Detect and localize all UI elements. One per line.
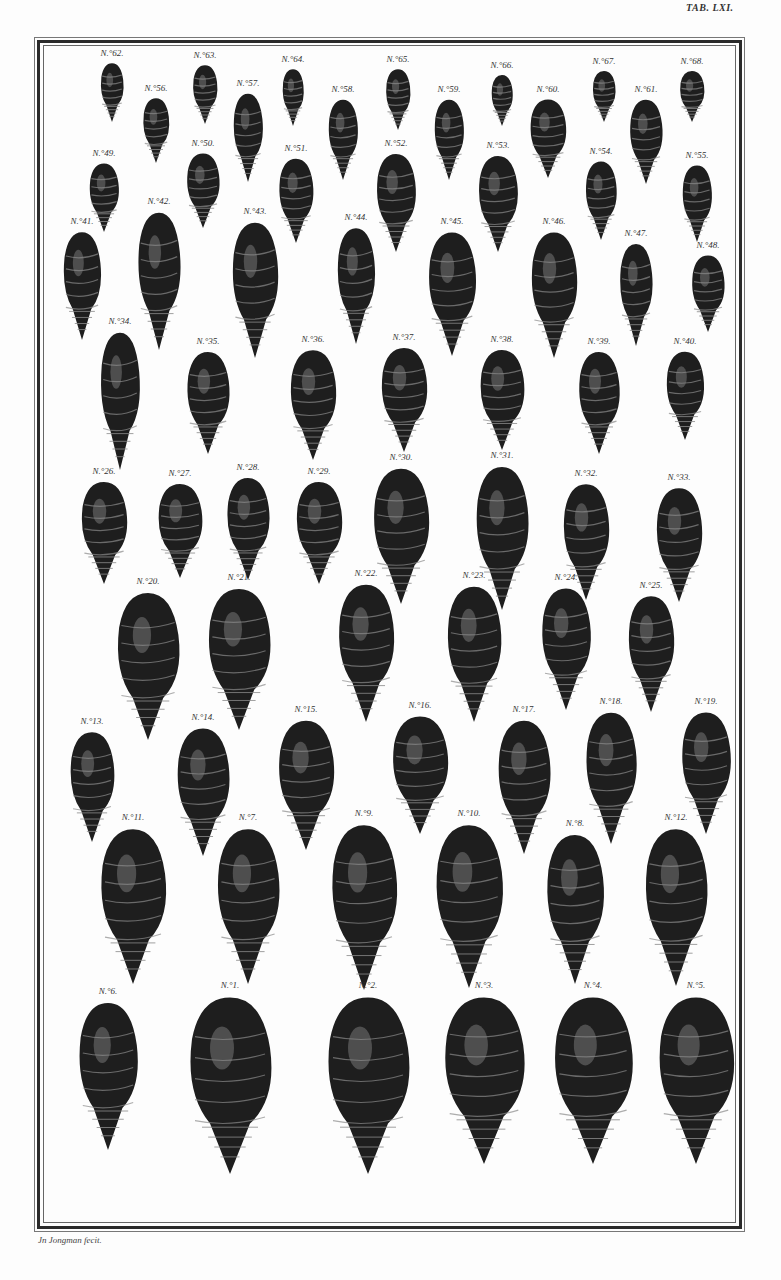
shell-label: N.°17. <box>512 704 535 714</box>
shell-label: N.°35. <box>196 336 219 346</box>
shell-figure <box>626 98 666 184</box>
shell-figure <box>182 350 234 454</box>
shell-figure <box>318 994 418 1174</box>
shell-label: N.°46. <box>542 216 565 226</box>
shell-label: N.°49. <box>92 148 115 158</box>
engraver-signature: Jn Jongman fecit. <box>38 1235 102 1245</box>
shell-label: N.°40. <box>673 336 696 346</box>
shell-label: N.°45. <box>440 216 463 226</box>
shell-figure <box>183 152 223 228</box>
shell-label: N.°12. <box>664 812 687 822</box>
shell-figure <box>227 220 283 358</box>
shell-figure <box>582 160 620 240</box>
shell-label: N.°55. <box>685 150 708 160</box>
shell-figure <box>475 348 529 450</box>
shell-label: N.°4. <box>584 980 603 990</box>
shell-label: N.°41. <box>70 216 93 226</box>
shell-label: N.°26. <box>92 466 115 476</box>
shell-label: N.°29. <box>307 466 330 476</box>
shell-figure <box>325 98 361 180</box>
shell-label: N.°58. <box>331 84 354 94</box>
shell-figure <box>98 62 126 122</box>
shell-label: N.°20. <box>136 576 159 586</box>
shell-figure <box>526 98 570 178</box>
shell-figure <box>574 350 624 454</box>
shell-label: N.°54. <box>589 146 612 156</box>
shell-figure <box>431 98 467 180</box>
shell-label: N.°66. <box>490 60 513 70</box>
shell-figure <box>662 350 708 440</box>
shell-figure <box>540 832 610 984</box>
shell-label: N.°32. <box>574 468 597 478</box>
shell-label: N.°48. <box>696 240 719 250</box>
shell-label: N.°37. <box>392 332 415 342</box>
shell-label: N.°62. <box>100 48 123 58</box>
shell-label: N.°27. <box>168 468 191 478</box>
shell-label: N.°16. <box>408 700 431 710</box>
shell-label: N.°43. <box>243 206 266 216</box>
shell-label: N.°50. <box>191 138 214 148</box>
shell-figure <box>580 710 642 844</box>
shell-label: N.°67. <box>592 56 615 66</box>
shell-figure <box>688 254 728 332</box>
shell-label: N.°8. <box>566 818 585 828</box>
shell-label: N.°38. <box>490 334 513 344</box>
shell-figure <box>435 994 533 1164</box>
shell-figure <box>59 230 105 340</box>
shell-label: N.°31. <box>490 450 513 460</box>
shell-label: N.°57. <box>236 78 259 88</box>
plate-title: TAB. LXI. <box>686 2 734 13</box>
shell-label: N.°15. <box>294 704 317 714</box>
shell-label: N.°5. <box>687 980 706 990</box>
shell-label: N.°39. <box>587 336 610 346</box>
shell-figure <box>332 582 400 722</box>
shell-label: N.°13. <box>80 716 103 726</box>
shell-label: N.°65. <box>386 54 409 64</box>
shell-figure <box>590 70 618 122</box>
shell-label: N.°52. <box>384 138 407 148</box>
shell-figure <box>222 476 274 580</box>
shell-label: N.°44. <box>344 212 367 222</box>
shell-figure <box>133 210 185 350</box>
shell-figure <box>190 64 220 124</box>
shell-figure <box>201 586 277 730</box>
shell-figure <box>72 1000 144 1150</box>
shell-label: N.°19. <box>694 696 717 706</box>
shell-figure <box>386 714 454 834</box>
shell-figure <box>536 586 596 710</box>
shell-label: N.°23. <box>462 570 485 580</box>
shell-figure <box>280 68 306 126</box>
shell-label: N.°68. <box>680 56 703 66</box>
shell-label: N.°10. <box>457 808 480 818</box>
shell-label: N.°33. <box>667 472 690 482</box>
shell-figure <box>650 994 742 1164</box>
shell-figure <box>428 822 510 988</box>
shell-label: N.°21. <box>227 572 250 582</box>
shell-figure <box>291 480 347 584</box>
shell-label: N.°42. <box>147 196 170 206</box>
shell-figure <box>376 346 432 452</box>
shell-label: N.°25. <box>639 580 662 590</box>
shell-label: N.°64. <box>281 54 304 64</box>
shell-label: N.°56. <box>144 83 167 93</box>
shell-figure <box>372 152 420 252</box>
shell-figure <box>180 994 280 1174</box>
shell-label: N.°34. <box>108 316 131 326</box>
shell-figure <box>623 594 679 712</box>
shell-figure <box>76 480 132 584</box>
shell-figure <box>474 154 522 252</box>
shell-figure <box>677 70 707 122</box>
shell-label: N.°14. <box>191 712 214 722</box>
shell-figure <box>441 584 507 722</box>
shell-label: N.°36. <box>301 334 324 344</box>
shell-label: N.°63. <box>193 50 216 60</box>
shell-figure <box>96 330 144 470</box>
shell-figure <box>545 994 641 1164</box>
shell-figure <box>210 826 286 984</box>
shell-figure <box>324 822 404 990</box>
shell-figure <box>489 74 515 126</box>
shell-figure <box>110 590 186 740</box>
shell-label: N.°11. <box>122 812 144 822</box>
shell-figure <box>153 482 207 578</box>
shell-label: N.°60. <box>536 84 559 94</box>
